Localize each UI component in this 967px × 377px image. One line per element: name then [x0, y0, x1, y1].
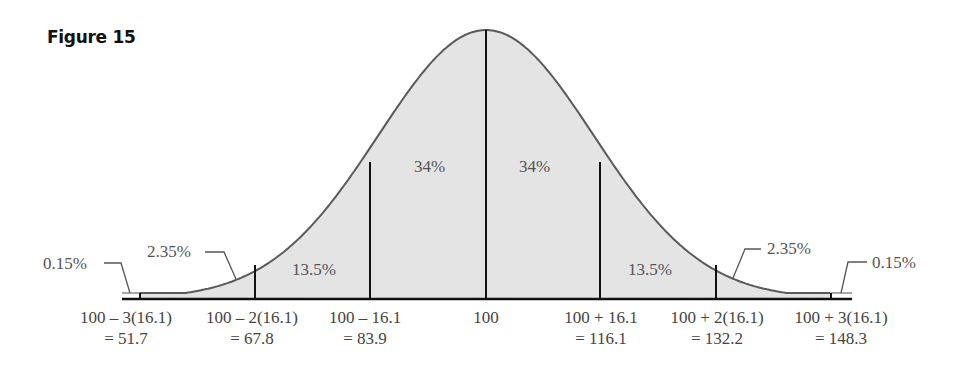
- x-tick-minus3: 100 – 3(16.1) = 51.7: [80, 307, 172, 349]
- x-tick-value: = 83.9: [329, 328, 401, 349]
- x-tick-expr: 100 + 2(16.1): [670, 307, 763, 328]
- leader-right-tail: [841, 262, 867, 293]
- x-tick-expr: 100 + 16.1: [564, 307, 637, 328]
- x-tick-minus1: 100 – 16.1 = 83.9: [329, 307, 401, 349]
- x-tick-minus2: 100 – 2(16.1) = 67.8: [206, 307, 298, 349]
- label-left-2-pct: 2.35%: [147, 243, 191, 260]
- leader-left-tail: [104, 263, 130, 293]
- x-tick-value: = 116.1: [564, 328, 637, 349]
- x-tick-expr: 100 + 3(16.1): [794, 307, 887, 328]
- x-tick-expr: 100 – 16.1: [329, 307, 401, 328]
- x-tick-value: = 51.7: [80, 328, 172, 349]
- leader-right-2: [733, 249, 761, 278]
- label-right-34-pct: 34%: [519, 158, 550, 175]
- label-left-tail-pct: 0.15%: [43, 255, 87, 272]
- label-left-13-pct: 13.5%: [292, 261, 336, 278]
- x-tick-expr: 100: [473, 307, 499, 328]
- x-tick-expr: 100 – 2(16.1): [206, 307, 298, 328]
- x-tick-plus2: 100 + 2(16.1) = 132.2: [670, 307, 763, 349]
- leader-left-2: [205, 252, 236, 279]
- label-right-2-pct: 2.35%: [767, 240, 811, 257]
- x-tick-plus1: 100 + 16.1 = 116.1: [564, 307, 637, 349]
- x-tick-expr: 100 – 3(16.1): [80, 307, 172, 328]
- label-left-34-pct: 34%: [414, 158, 445, 175]
- x-tick-value: = 148.3: [794, 328, 887, 349]
- x-tick-mean: 100: [473, 307, 499, 328]
- x-tick-plus3: 100 + 3(16.1) = 148.3: [794, 307, 887, 349]
- label-right-13-pct: 13.5%: [628, 261, 672, 278]
- x-tick-value: = 67.8: [206, 328, 298, 349]
- x-tick-value: = 132.2: [670, 328, 763, 349]
- label-right-tail-pct: 0.15%: [872, 254, 916, 271]
